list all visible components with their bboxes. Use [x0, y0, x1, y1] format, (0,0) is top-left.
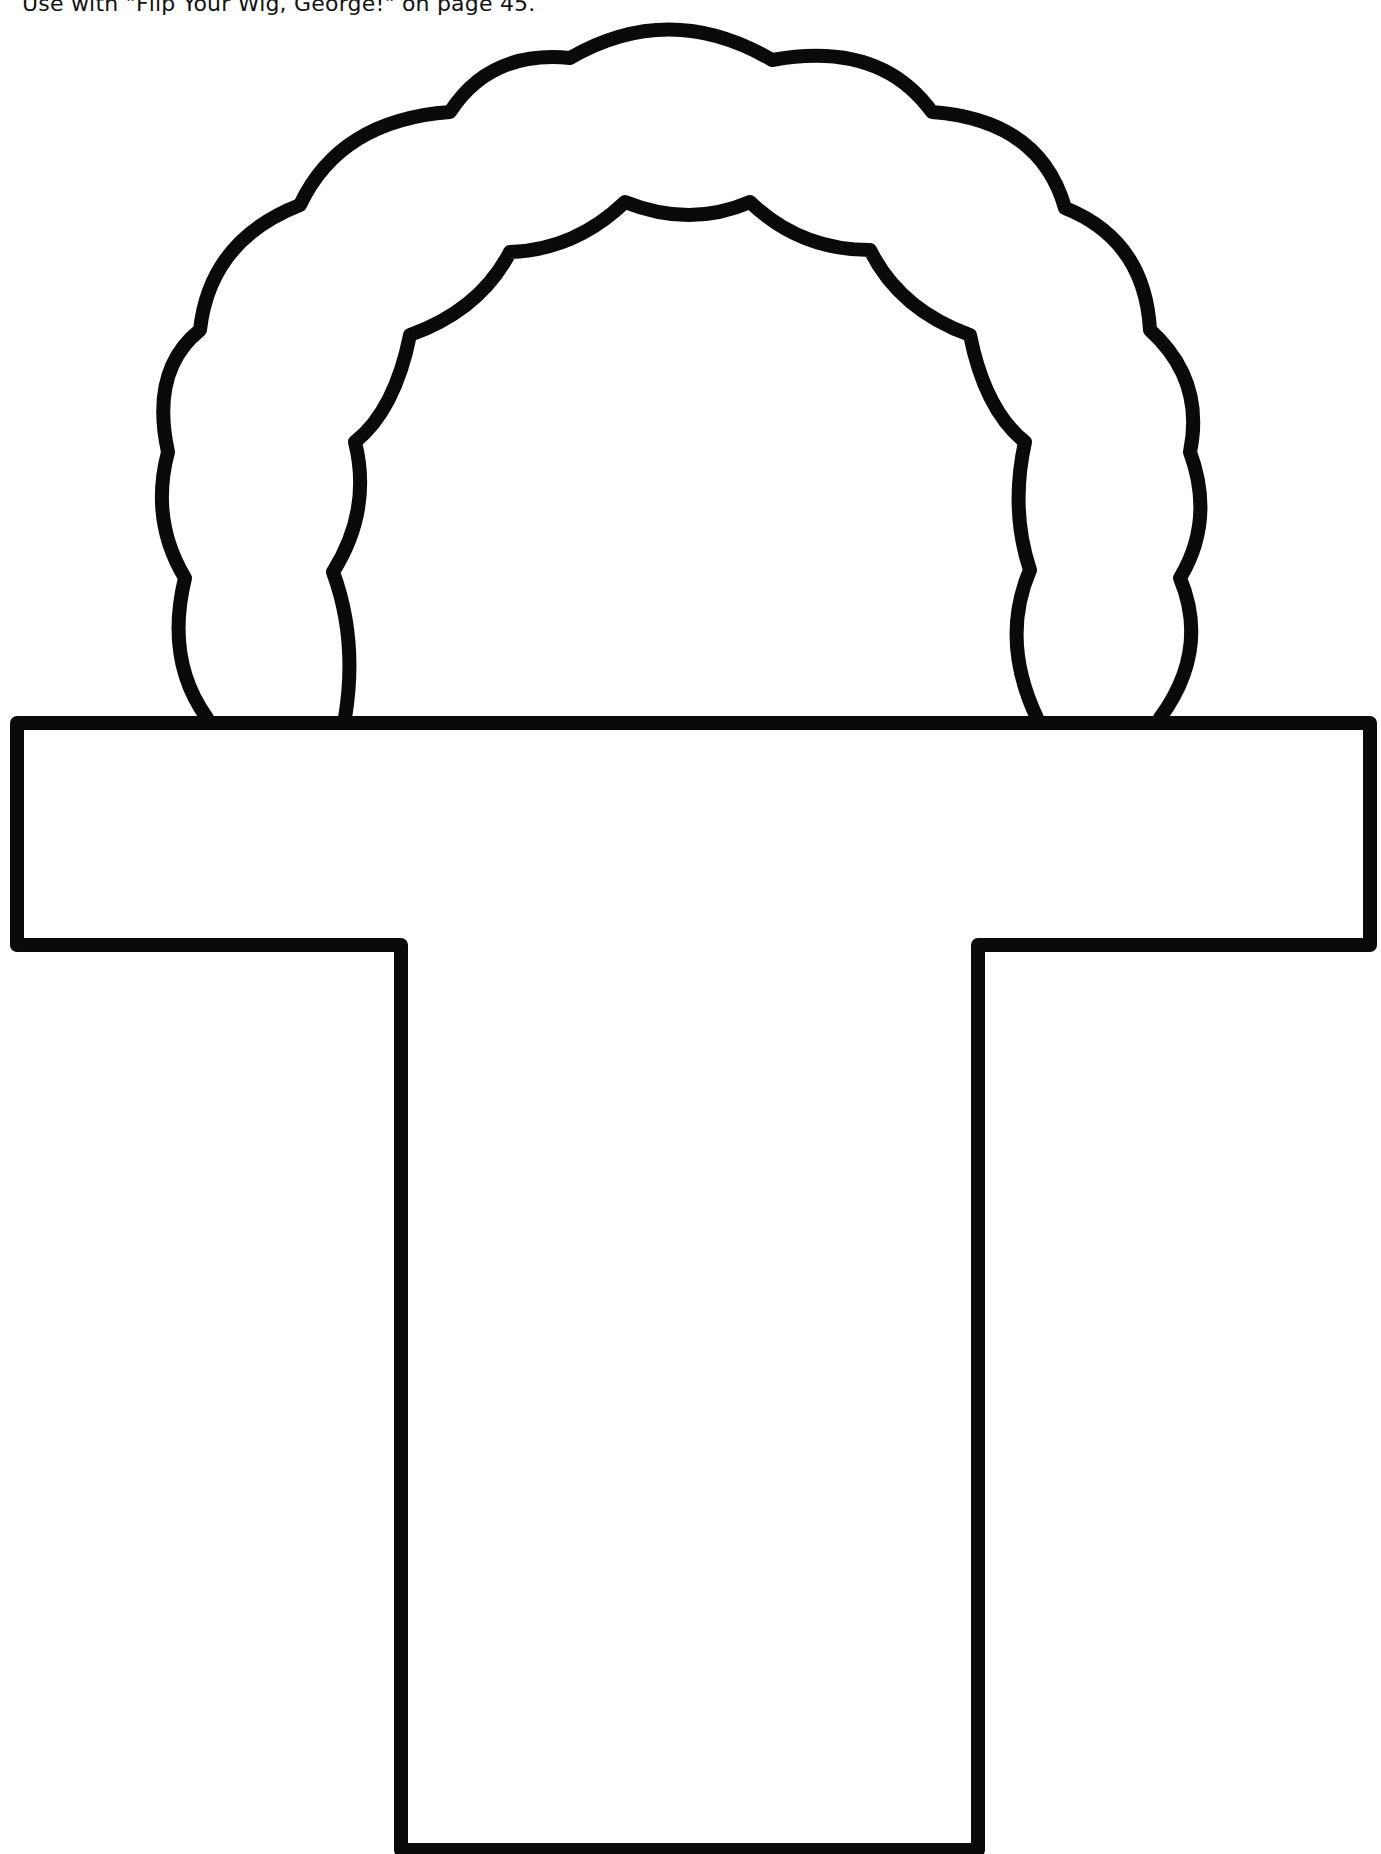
t-wig-template	[0, 0, 1381, 1854]
wig-outer-outline	[162, 29, 1201, 718]
t-outline	[17, 723, 1370, 1850]
wig-inner-outline	[333, 202, 1037, 718]
